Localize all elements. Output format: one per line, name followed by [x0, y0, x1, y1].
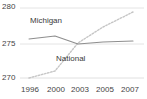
y-tick-label-280: 280	[2, 3, 15, 11]
x-tick-label-2005: 2005	[93, 86, 117, 94]
line-chart: 280 275 270 1996 2000 2003 2005 2007 Mic…	[0, 0, 147, 99]
x-tick-label-2000: 2000	[44, 86, 68, 94]
x-tick-label-2007: 2007	[118, 86, 142, 94]
y-tick-label-270: 270	[2, 74, 15, 82]
y-tick-label-275: 275	[2, 40, 15, 48]
series-label-national: National	[56, 55, 85, 63]
x-tick-label-2003: 2003	[68, 86, 92, 94]
series-label-michigan: Michigan	[30, 17, 62, 25]
series-line-michigan	[29, 36, 133, 44]
x-tick-label-1996: 1996	[18, 86, 42, 94]
